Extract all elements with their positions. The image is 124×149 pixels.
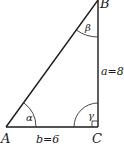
angle-gamma-arc (74, 103, 98, 127)
angle-beta-label: β (84, 22, 91, 33)
triangle-diagram: B A C β α γ a=8 b=6 (0, 0, 124, 149)
vertex-b-label: B (99, 0, 110, 11)
angle-gamma-label: γ (88, 110, 94, 121)
right-angle-marker (92, 121, 98, 127)
hypotenuse-line (6, 0, 98, 127)
vertex-a-label: A (0, 131, 10, 146)
side-a-label: a=8 (101, 65, 124, 78)
angle-alpha-label: α (26, 112, 33, 123)
vertex-c-label: C (92, 131, 102, 146)
side-b-label: b=6 (36, 133, 59, 146)
